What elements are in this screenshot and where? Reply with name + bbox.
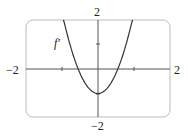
x-min-label: −2 [6, 64, 19, 76]
y-max-label: 2 [94, 6, 100, 18]
curve-label: f′ [54, 37, 60, 49]
y-min-label: −2 [91, 120, 104, 132]
chart-plot [0, 0, 188, 137]
x-max-label: 2 [174, 64, 180, 76]
